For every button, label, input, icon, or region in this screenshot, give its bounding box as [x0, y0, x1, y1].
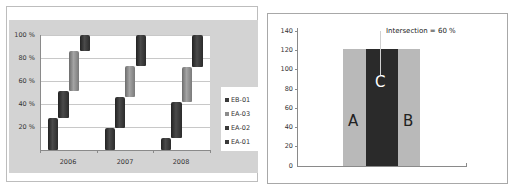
bar-segment-eb01-2006 — [80, 35, 90, 51]
left-x-axis — [40, 150, 210, 151]
annotation-leader-line — [380, 31, 381, 75]
bar-segment-c — [366, 49, 398, 166]
y-tick-label: 40 % — [5, 100, 35, 108]
legend-label: EA-01 — [231, 138, 250, 146]
x-tick — [210, 150, 211, 153]
bar-segment-ea02-2008 — [171, 102, 182, 138]
bar-segment-ea01-2008 — [161, 138, 171, 150]
right-x-axis — [297, 166, 467, 167]
y-tick-label: 80 — [273, 85, 293, 93]
x-category-label: 2008 — [161, 158, 201, 166]
legend-item-ea01: EA-01 — [225, 138, 250, 146]
y-tick-label: 60 — [273, 104, 293, 112]
legend-swatch-icon — [225, 126, 229, 130]
x-tick — [97, 150, 98, 153]
y-tick — [295, 108, 298, 109]
label-a: A — [348, 112, 358, 130]
x-category-label: 2006 — [48, 158, 88, 166]
gridline — [40, 127, 210, 128]
y-tick — [295, 146, 298, 147]
bar-segment-ea02-2006 — [58, 91, 69, 118]
y-tick-label: 120 — [273, 46, 293, 54]
y-tick — [295, 69, 298, 70]
y-tick-label: 20 — [273, 142, 293, 150]
y-tick-label: 140 — [273, 27, 293, 35]
legend-label: EB-01 — [231, 96, 250, 104]
bar-segment-eb01-2008 — [192, 35, 203, 67]
bar-segment-b — [398, 49, 420, 166]
gridline — [40, 35, 210, 36]
annotation-label: Intersection = 60 % — [386, 27, 456, 35]
bar-segment-ea03-2008 — [182, 67, 192, 102]
y-tick-label: 0 — [273, 162, 293, 170]
legend-item-eb01: EB-01 — [225, 96, 250, 104]
y-tick-label: 80 % — [5, 54, 35, 62]
y-tick-label: 60 % — [5, 77, 35, 85]
legend-swatch-icon — [225, 98, 229, 102]
bar-segment-eb01-2007 — [136, 35, 146, 66]
legend: EB-01 EA-03 EA-02 EA-01 — [221, 87, 258, 151]
legend-swatch-icon — [225, 112, 229, 116]
y-tick-label: 100 — [273, 65, 293, 73]
legend-swatch-icon — [225, 140, 229, 144]
bar-segment-ea01-2007 — [105, 128, 115, 150]
label-b: B — [403, 112, 413, 130]
bar-segment-ea02-2007 — [115, 97, 125, 128]
bar-segment-a — [343, 49, 366, 166]
bar-segment-ea03-2007 — [125, 66, 135, 97]
gridline — [40, 58, 210, 59]
legend-label: EA-02 — [231, 124, 250, 132]
y-tick — [295, 89, 298, 90]
y-tick — [295, 50, 298, 51]
y-tick — [295, 31, 298, 32]
x-tick — [466, 163, 467, 167]
x-tick — [153, 150, 154, 153]
x-tick — [40, 150, 41, 153]
legend-item-ea02: EA-02 — [225, 124, 250, 132]
legend-label: EA-03 — [231, 110, 250, 118]
y-tick-label: 40 — [273, 123, 293, 131]
bar-segment-ea01-2006 — [48, 118, 58, 150]
left-y-axis — [40, 35, 41, 150]
bar-segment-ea03-2006 — [69, 51, 79, 91]
y-tick — [295, 127, 298, 128]
label-c: C — [375, 73, 385, 91]
y-tick-label: 20 % — [5, 123, 35, 131]
legend-item-ea03: EA-03 — [225, 110, 250, 118]
x-category-label: 2007 — [105, 158, 145, 166]
y-tick-label: 100 % — [5, 31, 35, 39]
